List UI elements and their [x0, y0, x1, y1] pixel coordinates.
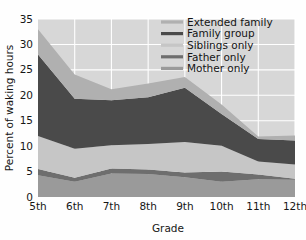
y-tick-label: 25	[20, 63, 33, 75]
x-tick-label: 8th	[139, 200, 156, 212]
y-tick-label: 10	[20, 140, 33, 152]
x-axis-title: Grade	[152, 222, 184, 234]
chart-figure: 05101520253035 5th6th7th8th9th10th11th12…	[0, 0, 306, 240]
y-tick-label: 35	[20, 13, 33, 25]
x-tick-label: 10th	[210, 200, 234, 212]
y-tick-label: 5	[26, 165, 33, 177]
y-tick-label: 15	[20, 114, 33, 126]
legend-label: Family group	[187, 27, 255, 39]
y-tick-label: 30	[20, 38, 33, 50]
y-axis-title: Percent of waking hours	[3, 45, 15, 172]
legend-label: Mother only	[187, 62, 250, 74]
x-tick-label: 9th	[176, 200, 193, 212]
legend-label: Extended family	[187, 16, 273, 28]
x-tick-label: 5th	[29, 200, 46, 212]
x-tick-label: 7th	[103, 200, 120, 212]
legend-label: Father only	[187, 51, 246, 63]
x-tick-label: 11th	[246, 200, 270, 212]
x-tick-label: 12th	[283, 200, 306, 212]
y-tick-label: 20	[20, 89, 33, 101]
x-tick-label: 6th	[66, 200, 83, 212]
stacked-area-chart: 05101520253035 5th6th7th8th9th10th11th12…	[0, 0, 306, 240]
legend-label: Siblings only	[187, 39, 253, 51]
